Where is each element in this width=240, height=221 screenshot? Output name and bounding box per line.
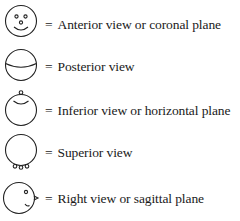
equals-sign: = [45,17,53,32]
legend-text: Inferior view or horizontal plane [58,103,231,118]
legend-label-inferior: =Inferior view or horizontal plane [45,103,230,119]
legend-label-superior: =Superior view [45,145,132,161]
equals-sign: = [45,191,53,206]
legend-text: Posterior view [58,59,135,74]
equals-sign: = [45,103,53,118]
legend-row-superior: =Superior view [0,130,240,170]
legend-text: Anterior view or coronal plane [58,17,221,32]
legend-label-anterior: =Anterior view or coronal plane [45,17,221,33]
legend-row-posterior: =Posterior view [0,44,240,84]
legend-row-anterior: =Anterior view or coronal plane [0,0,240,40]
right-profile-head-icon [0,176,46,220]
legend-row-right: =Right view or sagittal plane [0,176,240,216]
equals-sign: = [45,145,53,160]
legend-row-inferior: =Inferior view or horizontal plane [0,86,240,126]
superior-head-icon [0,130,46,174]
posterior-head-icon [0,44,46,88]
legend-label-posterior: =Posterior view [45,59,134,75]
legend-label-right: =Right view or sagittal plane [45,191,204,207]
inferior-head-icon [0,86,46,130]
legend-text: Right view or sagittal plane [58,191,204,206]
equals-sign: = [45,59,53,74]
legend-text: Superior view [58,145,133,160]
anterior-face-icon [0,0,46,44]
